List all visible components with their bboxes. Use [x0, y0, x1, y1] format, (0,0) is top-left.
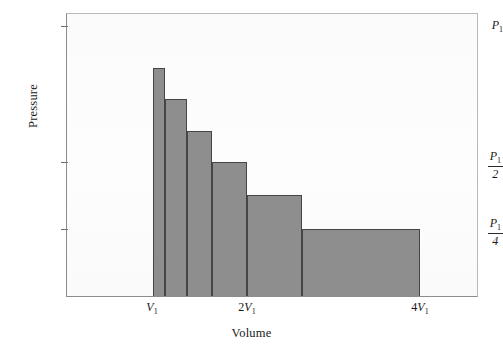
fraction-p1-over-2: P1 2 — [488, 150, 503, 180]
bar-5 — [247, 195, 302, 296]
pv-diagram-figure: P1 P1 2 P1 4 Pressure Volume V1 2V1 4V1 — [0, 0, 503, 349]
fraction-p1-over-4: P1 4 — [488, 217, 503, 247]
xtick-label-2v1: 2V1 — [238, 301, 255, 316]
y-axis-title: Pressure — [26, 84, 41, 128]
ytick-label-p1-symbol: P — [492, 18, 499, 32]
x-axis-title: Volume — [0, 326, 503, 341]
bar-3 — [187, 131, 212, 296]
ytick-p1-over-4 — [61, 229, 68, 230]
xtick-label-4v1: 4V1 — [411, 301, 428, 316]
fraction-denominator: 2 — [488, 167, 503, 181]
fraction-numerator: P1 — [488, 150, 503, 167]
xtick-label-subscript: 1 — [252, 307, 256, 316]
plot-frame — [66, 13, 478, 297]
ytick-label-p1-over-4: P1 4 — [447, 217, 503, 247]
fraction-denominator: 4 — [488, 234, 503, 248]
ytick-label-p1-subscript: 1 — [499, 25, 503, 34]
ytick-label-p1-over-2: P1 2 — [447, 150, 503, 180]
xtick-label-v1: V1 — [146, 301, 157, 316]
fraction-numerator: P1 — [488, 217, 503, 234]
bar-4 — [212, 162, 247, 296]
ytick-p1-over-2 — [61, 162, 68, 163]
ytick-p1 — [61, 26, 68, 27]
xtick-label-subscript: 1 — [425, 307, 429, 316]
bar-6 — [302, 229, 420, 296]
ytick-label-p1: P1 — [447, 19, 503, 34]
bar-1 — [153, 68, 165, 296]
bar-2 — [165, 99, 187, 296]
xtick-label-subscript: 1 — [154, 307, 158, 316]
